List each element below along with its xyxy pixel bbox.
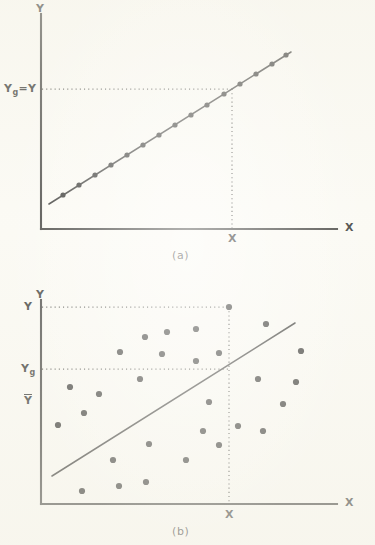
panel-a-caption: (a) (172, 249, 189, 262)
panel-b-y-tick-mid-subscript: g (29, 368, 35, 377)
panel-b-y-tick-top-label: Y (24, 300, 32, 313)
panel-a-y-tick-equals: =Y (19, 82, 37, 95)
panel-b-data-points (55, 304, 304, 494)
panel-a: Y X Yg=Y X (a) (0, 0, 375, 272)
panel-a-y-tick-label: Yg=Y (4, 82, 36, 97)
panel-a-plot (0, 0, 375, 272)
panel-b-y-tick-mid-base: Y (21, 362, 29, 375)
panel-b-x-tick-label: X (225, 508, 234, 521)
panel-b-y-tick-bottom-base: Y (24, 394, 32, 406)
panel-b-y-axis-label: Y (36, 288, 44, 301)
panel-b-regression-line (52, 323, 295, 476)
panel-a-y-tick-base: Y (4, 82, 12, 95)
panel-a-data-points (60, 52, 288, 197)
figure-page: Y X Yg=Y X (a) (0, 0, 375, 545)
panel-b: Y X Y Yg Y X (b) (0, 272, 375, 545)
panel-b-plot (0, 272, 375, 545)
panel-b-caption: (b) (172, 525, 189, 538)
panel-b-y-tick-mid-label: Yg (21, 362, 36, 377)
panel-b-x-axis-label: X (345, 496, 354, 509)
panel-a-y-axis-label: Y (36, 2, 44, 15)
panel-a-x-tick-label: X (228, 232, 237, 245)
panel-a-x-axis-label: X (345, 221, 354, 234)
panel-b-y-tick-bottom-label: Y (24, 394, 32, 407)
